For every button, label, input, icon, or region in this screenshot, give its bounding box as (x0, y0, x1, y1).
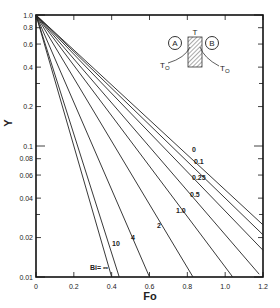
y-tick-label: 0.08 (19, 155, 33, 162)
curve-label: 4 (131, 234, 135, 241)
curve-label: 0.1 (194, 158, 204, 165)
wall-slab (188, 37, 202, 67)
y-tick-label: 0.6 (23, 41, 33, 48)
y-tick-label: 0.1 (23, 143, 33, 150)
curves (36, 15, 263, 277)
temp-t-label: T (193, 28, 198, 37)
curve-label: Bi= ∞ (90, 264, 108, 271)
curve-label: 0.5 (190, 191, 200, 198)
x-tick-label: 1.2 (258, 283, 268, 290)
curve-bi-0.1 (36, 15, 263, 235)
y-tick-label: 1.0 (23, 12, 33, 19)
curve-label: 2 (157, 222, 161, 229)
axes: 00.20.40.60.81.01.21.00.80.60.40.20.10.0… (19, 12, 268, 291)
y-tick-label: 0.8 (23, 24, 33, 31)
curve-label: 1.0 (176, 207, 186, 214)
inset-diagram: A B T TO TO (160, 28, 230, 74)
curve-label: 0.25 (192, 174, 206, 181)
curve-bi-0 (36, 15, 263, 225)
x-tick-label: 0 (34, 283, 38, 290)
fluid-a-label: A (172, 39, 178, 48)
y-tick-label: 0.02 (19, 234, 33, 241)
curve-bi-0.5 (36, 15, 259, 274)
y-tick-label: 0.4 (23, 64, 33, 71)
chart: 00.20.40.60.81.01.21.00.80.60.40.20.10.0… (0, 0, 280, 308)
left-profile (168, 47, 190, 63)
y-tick-label: 0.01 (19, 274, 33, 281)
x-tick-label: 0.4 (107, 283, 117, 290)
to-right-label: TO (220, 64, 230, 74)
y-tick-label: 0.2 (23, 103, 33, 110)
fluid-b-label: B (209, 39, 214, 48)
right-profile (200, 47, 219, 66)
x-tick-label: 0.2 (69, 283, 79, 290)
chart-svg: 00.20.40.60.81.01.21.00.80.60.40.20.10.0… (0, 0, 280, 308)
x-tick-label: 0.8 (182, 283, 192, 290)
x-axis-label: Fo (143, 290, 157, 302)
curve-label: 0 (192, 146, 196, 153)
curve-labels: Bi= ∞10421.00.50.250.10 (90, 146, 206, 271)
x-tick-label: 0.6 (145, 283, 155, 290)
y-tick-label: 0.04 (19, 195, 33, 202)
curve-label: 10 (112, 240, 120, 247)
y-axis-label: Y (2, 119, 14, 127)
y-tick-label: 0.06 (19, 172, 33, 179)
curve-bi-2 (36, 15, 193, 277)
curve-bi-10 (36, 15, 119, 277)
x-tick-label: 1.0 (220, 283, 230, 290)
